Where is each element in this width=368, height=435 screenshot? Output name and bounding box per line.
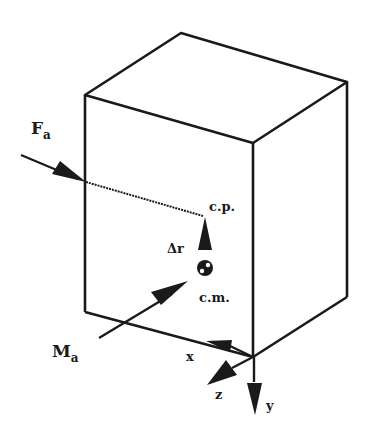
cp-label: c.p. xyxy=(209,199,235,214)
cube-top-face xyxy=(85,33,347,143)
y-axis-arrow xyxy=(247,383,262,415)
moment-label-sub: a xyxy=(71,351,79,365)
x-axis-label: x xyxy=(186,349,194,364)
center-of-mass-icon xyxy=(197,260,213,276)
cube-diagram xyxy=(0,0,368,435)
cube xyxy=(85,33,347,357)
z-axis-arrow xyxy=(207,360,237,385)
delta-r-label: Δr xyxy=(167,241,184,256)
z-axis-label: z xyxy=(215,387,222,402)
force-arrow xyxy=(21,155,203,216)
delta-r-arrow xyxy=(198,217,212,250)
cm-label: c.m. xyxy=(199,290,230,305)
moment-label: Ma xyxy=(52,341,79,361)
moment-arrow xyxy=(99,281,188,338)
diagram-canvas: Fa c.p. Δr c.m. Ma x z y xyxy=(0,0,368,435)
force-label: Fa xyxy=(31,118,51,138)
moment-label-main: M xyxy=(52,341,71,361)
force-label-main: F xyxy=(31,118,43,138)
y-axis-label: y xyxy=(266,398,274,413)
force-line-of-action xyxy=(86,182,203,216)
force-label-sub: a xyxy=(43,128,51,142)
